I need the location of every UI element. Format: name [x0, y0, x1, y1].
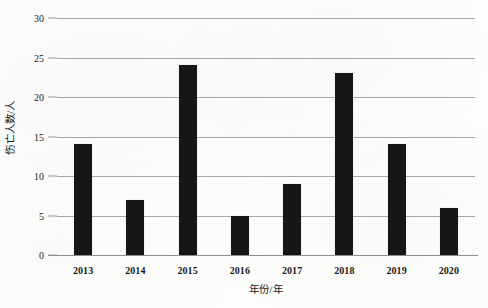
x-axis-tick-slot: 2016	[214, 260, 266, 278]
y-axis-tick-mark	[48, 215, 57, 216]
x-axis-tick-slot: 2013	[57, 260, 109, 278]
bar-slot	[57, 18, 109, 255]
y-axis-tick-label: 20	[34, 92, 44, 103]
bar-slot	[371, 18, 423, 255]
y-axis-tick-mark	[48, 57, 57, 58]
bar	[126, 200, 144, 255]
y-axis-tick-mark	[48, 176, 57, 177]
y-axis-tick-label: 15	[34, 131, 44, 142]
y-axis-tick-label: 30	[34, 13, 44, 24]
x-axis-tick-label: 2013	[73, 265, 93, 276]
y-axis-tick-labels: 051015202530	[18, 0, 46, 263]
x-axis-title: 年份/年	[57, 281, 475, 296]
x-axis-tick-label: 2019	[386, 265, 406, 276]
bar-slot	[318, 18, 370, 255]
x-axis-tick-slot: 2020	[423, 260, 475, 278]
bar-slot	[423, 18, 475, 255]
bar	[388, 144, 406, 255]
y-axis-tick-label: 0	[39, 250, 44, 261]
y-axis-tick-label: 10	[34, 171, 44, 182]
bar-slot	[109, 18, 161, 255]
x-axis-tick-label: 2017	[282, 265, 302, 276]
y-axis-tick-mark	[48, 255, 57, 256]
x-axis-tick-label: 2014	[125, 265, 145, 276]
bar	[335, 73, 353, 255]
x-axis-tick-labels: 20132014201520162017201820192020	[57, 260, 475, 278]
y-axis-title: 伤亡人数/人	[0, 0, 18, 255]
x-axis-tick-slot: 2018	[318, 260, 370, 278]
x-axis-tick-label: 2020	[439, 265, 459, 276]
x-axis-tick-slot: 2019	[371, 260, 423, 278]
bar	[231, 216, 249, 256]
x-axis-line	[48, 255, 478, 256]
x-axis-tick-slot: 2017	[266, 260, 318, 278]
bar	[283, 184, 301, 255]
bar-chart-figure: 伤亡人数/人 051015202530 20132014201520162017…	[0, 0, 488, 308]
bar-slot	[266, 18, 318, 255]
bar-series	[57, 18, 475, 255]
y-axis-title-text: 伤亡人数/人	[2, 100, 17, 154]
bar	[74, 144, 92, 255]
y-axis-tick-mark	[48, 136, 57, 137]
y-axis-tick-mark	[48, 97, 57, 98]
x-axis-tick-slot: 2014	[109, 260, 161, 278]
x-axis-tick-label: 2016	[230, 265, 250, 276]
x-axis-tick-label: 2018	[334, 265, 354, 276]
bar-slot	[214, 18, 266, 255]
bar	[440, 208, 458, 255]
x-axis-tick-slot: 2015	[162, 260, 214, 278]
plot-area	[57, 18, 475, 255]
y-axis-tick-label: 5	[39, 210, 44, 221]
x-axis-tick-label: 2015	[177, 265, 197, 276]
y-axis-tick-label: 25	[34, 52, 44, 63]
bar	[179, 65, 197, 255]
y-axis-tick-mark	[48, 18, 57, 19]
bar-slot	[162, 18, 214, 255]
